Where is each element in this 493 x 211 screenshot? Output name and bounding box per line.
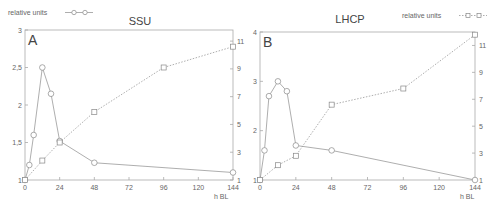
circle-marker <box>266 93 272 99</box>
x-axis-label: h BL <box>460 193 475 200</box>
series-line <box>260 81 475 180</box>
x-tick-label: 72 <box>364 184 372 191</box>
right-y-tick-label: 9 <box>237 65 241 72</box>
panel-label: B <box>263 34 272 50</box>
x-tick-label: 24 <box>292 184 300 191</box>
circle-marker <box>31 132 37 138</box>
square-marker <box>473 32 478 37</box>
right-y-tick-label: 1 <box>237 177 241 184</box>
circle-marker <box>262 148 268 154</box>
legend-label: relative units <box>8 9 48 16</box>
legend-square-icon <box>477 14 481 18</box>
square-marker <box>92 109 97 114</box>
chart-panel-a: 02448729612014411,522,531357911ASSUh BLr… <box>8 9 244 200</box>
square-marker <box>57 140 62 145</box>
right-y-tick-label: 3 <box>479 150 483 157</box>
x-tick-label: 144 <box>227 184 239 191</box>
right-y-tick-label: 11 <box>479 42 486 49</box>
x-tick-label: 144 <box>469 184 481 191</box>
right-y-tick-label: 5 <box>237 121 241 128</box>
x-tick-label: 48 <box>90 184 98 191</box>
x-axis-label: h BL <box>214 193 229 200</box>
chart-panel-b: 02448729612014412341357911BLHCPh BLrelat… <box>253 12 487 200</box>
x-tick-label: 96 <box>160 184 168 191</box>
circle-marker <box>284 88 290 94</box>
square-marker <box>275 163 280 168</box>
legend-circle-icon <box>83 10 87 14</box>
circle-marker <box>275 79 281 85</box>
left-y-tick-label: 1,5 <box>12 139 22 146</box>
square-marker <box>40 158 45 163</box>
plot-frame <box>25 30 233 180</box>
circle-marker <box>472 177 478 183</box>
x-tick-label: 120 <box>192 184 204 191</box>
square-marker <box>293 153 298 158</box>
circle-marker <box>230 170 236 176</box>
left-y-tick-label: 2 <box>253 127 257 134</box>
right-y-tick-label: 3 <box>237 149 241 156</box>
chart-title: LHCP <box>335 13 364 25</box>
circle-marker <box>92 160 98 166</box>
x-tick-label: 96 <box>399 184 407 191</box>
circle-marker <box>27 162 33 168</box>
x-tick-label: 24 <box>56 184 64 191</box>
circle-marker <box>40 65 46 71</box>
left-y-tick-label: 1 <box>253 177 257 184</box>
legend-label: relative units <box>402 12 442 19</box>
left-y-tick-label: 4 <box>253 29 257 36</box>
legend-circle-icon <box>72 10 76 14</box>
right-y-tick-label: 7 <box>479 96 483 103</box>
legend-square-icon <box>466 14 470 18</box>
x-tick-label: 0 <box>258 184 262 191</box>
left-y-tick-label: 1 <box>18 177 22 184</box>
legend: relative units <box>402 12 487 19</box>
x-tick-label: 120 <box>433 184 445 191</box>
left-y-tick-label: 2,5 <box>12 64 22 71</box>
chart-title: SSU <box>129 15 152 27</box>
series-line <box>25 47 233 180</box>
circle-marker <box>329 148 335 154</box>
x-tick-label: 48 <box>328 184 336 191</box>
x-tick-label: 72 <box>125 184 133 191</box>
square-marker <box>231 44 236 49</box>
x-tick-label: 0 <box>23 184 27 191</box>
figure: 02448729612014411,522,531357911ASSUh BLr… <box>0 0 493 211</box>
square-marker <box>401 86 406 91</box>
square-marker <box>23 178 28 183</box>
panel-label: A <box>28 32 38 48</box>
legend: relative units <box>8 9 93 16</box>
square-marker <box>329 102 334 107</box>
square-marker <box>258 178 263 183</box>
series-line <box>25 68 233 181</box>
right-y-tick-label: 11 <box>237 38 244 45</box>
right-y-tick-label: 1 <box>479 177 483 184</box>
right-y-tick-label: 9 <box>479 69 483 76</box>
circle-marker <box>293 143 299 149</box>
left-y-tick-label: 3 <box>253 78 257 85</box>
right-y-tick-label: 7 <box>237 93 241 100</box>
right-y-tick-label: 5 <box>479 123 483 130</box>
left-y-tick-label: 2 <box>18 102 22 109</box>
circle-marker <box>48 91 54 97</box>
square-marker <box>161 65 166 70</box>
left-y-tick-label: 3 <box>18 27 22 34</box>
